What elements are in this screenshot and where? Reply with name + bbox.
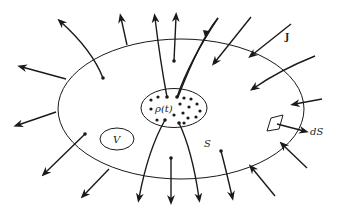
closed-surface-s <box>58 39 304 179</box>
flux-line-16 <box>283 145 307 168</box>
surface-label: S <box>204 138 211 149</box>
flux-line-10 <box>84 169 109 195</box>
flux-line-11 <box>178 18 218 97</box>
flux-line-9 <box>18 112 56 125</box>
flux-line-12 <box>215 17 251 62</box>
current-density-label: J <box>284 32 289 42</box>
flux-line-7 <box>121 18 127 45</box>
flux-line-down-2 <box>179 123 199 198</box>
charge-density-label: ρ(t) <box>154 103 173 114</box>
flux-line-down-1 <box>139 120 165 198</box>
flux-line-up-1 <box>155 18 167 97</box>
flux-line-2 <box>61 22 103 78</box>
continuity-equation-diagram: ρ(t) V S dS J <box>0 0 338 213</box>
flux-line-15 <box>295 99 322 104</box>
flux-line-14 <box>254 56 315 88</box>
flux-line-3 <box>174 17 176 61</box>
volume-label: V <box>113 134 122 145</box>
surface-element <box>267 115 304 131</box>
flux-line-8 <box>22 67 66 79</box>
surface-element-label: dS <box>310 126 323 137</box>
flux-line-17 <box>252 168 275 196</box>
flux-line-4 <box>45 134 85 173</box>
